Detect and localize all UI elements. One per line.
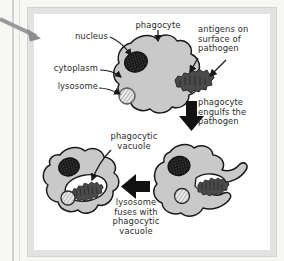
label-cytoplasm: cytoplasm: [30, 64, 98, 74]
lysosome-engulfing: [175, 189, 190, 204]
flow-arrow-left-icon: [121, 174, 150, 199]
lysosome-fusing: [61, 191, 75, 205]
leader-lysosome: [99, 88, 120, 94]
label-antigens-on-surface: antigens on surface of pathogen: [198, 25, 272, 54]
label-phagocyte-engulfs: phagocyte engulfs the pathogen: [198, 98, 274, 127]
label-phagocyte: phagocyte: [116, 21, 200, 31]
figure-root: phagocyte nucleus cytoplasm lysosome ant…: [0, 0, 284, 261]
label-nucleus: nucleus: [44, 32, 108, 42]
label-lysosome-fuses: lysosome fuses with phagocytic vacuole: [100, 198, 172, 236]
label-lysosome: lysosome: [34, 82, 98, 92]
pointer-arrow-gray-icon: [0, 19, 41, 42]
label-phagocytic-vacuole: phagocytic vacuole: [99, 132, 169, 151]
